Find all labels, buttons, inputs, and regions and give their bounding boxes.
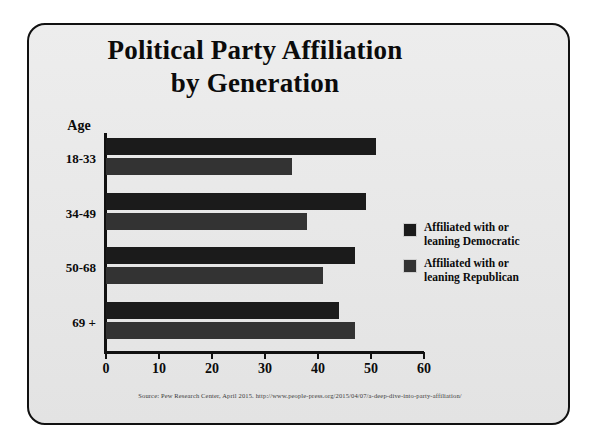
category-label-18-33: 18-33 (26, 151, 96, 167)
x-tick-60 (423, 352, 425, 359)
bar-50-68-democratic (106, 247, 355, 264)
source-note: Source: Pew Research Center, April 2015.… (40, 392, 560, 399)
legend-label-democratic-line-2: leaning Democratic (424, 235, 520, 247)
chart-title-line-1: Political Party Affiliation (40, 34, 470, 67)
x-tick-label-60: 60 (417, 361, 431, 377)
legend-label-democratic: Affiliated with or leaning Democratic (424, 221, 520, 248)
chart-title-line-2: by Generation (40, 67, 470, 100)
legend-item-democratic: Affiliated with or leaning Democratic (403, 221, 553, 248)
x-tick-40 (317, 352, 319, 359)
category-label-34-49: 34-49 (26, 206, 96, 222)
legend-label-republican: Affiliated with or leaning Republican (424, 257, 519, 284)
bar-18-33-democratic (106, 138, 376, 155)
x-tick-label-20: 20 (205, 361, 219, 377)
legend-swatch-republican-icon (403, 259, 417, 273)
legend-swatch-democratic-icon (403, 223, 417, 237)
legend-label-democratic-line-1: Affiliated with or (424, 221, 509, 233)
legend-label-republican-line-1: Affiliated with or (424, 257, 509, 269)
bar-34-49-republican (106, 213, 307, 230)
x-tick-label-30: 30 (258, 361, 272, 377)
x-tick-0 (105, 352, 107, 359)
category-label-50-68: 50-68 (26, 260, 96, 276)
bar-18-33-republican (106, 158, 292, 175)
y-axis-title: Age (58, 118, 100, 134)
bar-69-democratic (106, 302, 339, 319)
bar-50-68-republican (106, 267, 323, 284)
x-tick-50 (370, 352, 372, 359)
bar-34-49-democratic (106, 193, 366, 210)
x-tick-label-40: 40 (311, 361, 325, 377)
chart-image: Political Party Affiliation by Generatio… (0, 0, 594, 447)
x-tick-label-10: 10 (152, 361, 166, 377)
x-tick-label-0: 0 (103, 361, 110, 377)
plot-area: 0102030405060 18-3334-4950-6869 + (106, 133, 424, 351)
chart-title: Political Party Affiliation by Generatio… (40, 34, 470, 100)
category-label-69: 69 + (26, 315, 96, 331)
x-tick-30 (264, 352, 266, 359)
chart-legend: Affiliated with or leaning Democratic Af… (403, 221, 553, 293)
x-tick-20 (211, 352, 213, 359)
bar-69-republican (106, 322, 355, 339)
legend-item-republican: Affiliated with or leaning Republican (403, 257, 553, 284)
legend-label-republican-line-2: leaning Republican (424, 271, 519, 283)
x-tick-label-50: 50 (364, 361, 378, 377)
x-tick-10 (158, 352, 160, 359)
